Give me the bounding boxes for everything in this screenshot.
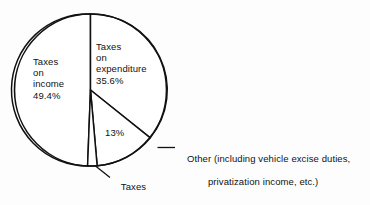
slice-label-other-percent: 13% [105,127,124,138]
slice-label-taxes-on-capital-line1: Taxes [121,181,146,192]
slice-label-other-line2: privatization income, etc.) [176,176,350,188]
leader-line-taxes-on-capital [96,166,111,178]
slice-label-taxes-on-income: Taxes on income 49.4% [33,56,64,101]
slice-label-taxes-on-capital-line2: on capital (2%) [121,204,186,205]
pie-chart-figure: Taxes on income 49.4% Taxes on expenditu… [0,0,370,205]
slice-label-taxes-on-expenditure: Taxes on expenditure 35.6% [96,41,147,86]
slice-label-other-line1: Other (including vehicle excise duties, [187,153,350,164]
slice-label-other: Other (including vehicle excise duties, … [176,141,350,205]
slice-label-taxes-on-capital: Taxes on capital (2%) [110,170,186,205]
